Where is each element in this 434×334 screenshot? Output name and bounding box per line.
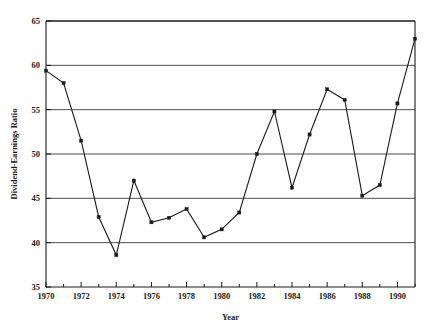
- data-point-1984: [290, 186, 293, 189]
- data-point-1982: [255, 152, 258, 155]
- x-tick-label-1980: 1980: [213, 291, 230, 301]
- data-point-markers: [44, 37, 416, 257]
- x-tick-label-1986: 1986: [319, 291, 336, 301]
- data-point-1985: [308, 133, 311, 136]
- data-point-1975: [132, 179, 135, 182]
- x-tick-label-1988: 1988: [354, 291, 371, 301]
- data-point-1979: [203, 236, 206, 239]
- data-series: [46, 39, 415, 255]
- x-tick-label-1984: 1984: [284, 291, 302, 301]
- data-point-1973: [97, 215, 100, 218]
- data-point-1970: [44, 69, 47, 72]
- x-axis-ticks: 1970197219741976197819801982198419861988…: [38, 282, 416, 301]
- series-line-dividend-earnings-ratio: [46, 39, 415, 255]
- data-point-1989: [378, 183, 381, 186]
- line-chart: 1970197219741976197819801982198419861988…: [0, 0, 434, 334]
- x-tick-label-1972: 1972: [73, 291, 90, 301]
- chart-container: 1970197219741976197819801982198419861988…: [0, 0, 434, 334]
- data-point-1977: [167, 216, 170, 219]
- y-tick-label-35: 35: [32, 282, 41, 292]
- y-axis-title: Dividend-Earnings Ratio: [9, 109, 19, 200]
- x-tick-label-1982: 1982: [248, 291, 265, 301]
- x-axis-title: Year: [222, 312, 239, 322]
- gridlines: [46, 21, 415, 243]
- data-point-1987: [343, 98, 346, 101]
- data-point-1990: [396, 102, 399, 105]
- y-tick-label-65: 65: [32, 16, 41, 26]
- data-point-1978: [185, 207, 188, 210]
- x-tick-label-1978: 1978: [178, 291, 195, 301]
- data-point-1974: [115, 253, 118, 256]
- data-point-1971: [62, 81, 65, 84]
- data-point-1983: [273, 110, 276, 113]
- data-point-1986: [326, 88, 329, 91]
- data-point-1976: [150, 221, 153, 224]
- y-tick-label-45: 45: [32, 193, 41, 203]
- y-tick-label-40: 40: [32, 238, 41, 248]
- data-point-1991: [413, 37, 416, 40]
- data-point-1972: [80, 139, 83, 142]
- y-tick-label-50: 50: [32, 149, 41, 159]
- data-point-1981: [238, 211, 241, 214]
- data-point-1980: [220, 228, 223, 231]
- x-tick-label-1974: 1974: [108, 291, 126, 301]
- data-point-1988: [361, 194, 364, 197]
- y-tick-label-55: 55: [32, 105, 41, 115]
- x-tick-label-1990: 1990: [389, 291, 406, 301]
- y-axis-ticks: 35404550556065: [32, 16, 52, 292]
- y-tick-label-60: 60: [32, 60, 41, 70]
- x-tick-label-1970: 1970: [38, 291, 55, 301]
- x-tick-label-1976: 1976: [143, 291, 160, 301]
